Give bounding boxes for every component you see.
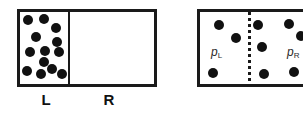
gas-particle [296, 31, 303, 41]
gas-particle [40, 46, 50, 56]
gas-particle [47, 64, 57, 74]
pressure-subscript: R [294, 51, 300, 60]
gas-particle [259, 69, 269, 79]
gas-particle [214, 20, 224, 30]
gas-particle [23, 15, 33, 25]
gas-particle [22, 66, 32, 76]
gas-particle [284, 19, 294, 29]
gas-particle [208, 68, 218, 78]
gas-particle [253, 20, 263, 30]
gas-particle [257, 42, 267, 52]
chamber-label-l: L [36, 92, 56, 107]
pressure-subscript: L [218, 51, 222, 60]
gas-particle [289, 67, 299, 77]
gas-particle [25, 47, 35, 57]
gas-particle [39, 14, 49, 24]
gas-particle [52, 37, 62, 47]
pressure-symbol: p [287, 45, 294, 59]
pressure-label-r: pR [287, 46, 299, 58]
gas-particle [36, 69, 46, 79]
gas-particle [231, 33, 241, 43]
pressure-label-l: pL [211, 46, 222, 58]
gas-particle [51, 23, 61, 33]
panel-after-dotted-partition [248, 12, 251, 84]
panel-before-solid-partition [68, 12, 70, 84]
gas-particle [54, 47, 64, 57]
gas-particle [31, 32, 41, 42]
pressure-symbol: p [211, 45, 218, 59]
gas-diffusion-figure: LRpLpR [0, 0, 303, 114]
chamber-label-r: R [99, 92, 119, 107]
gas-particle [57, 69, 67, 79]
